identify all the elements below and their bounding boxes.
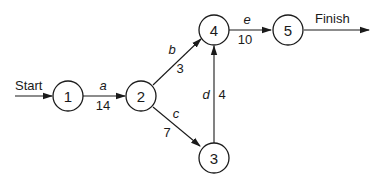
edge-b-name: b: [168, 42, 175, 57]
edge-e: e 10: [229, 12, 271, 47]
edge-c-name: c: [173, 106, 180, 121]
node-5: 5: [273, 15, 303, 45]
node-3-label: 3: [210, 150, 218, 167]
edge-d-weight: 4: [218, 87, 225, 102]
edge-c-weight: 7: [163, 125, 170, 140]
node-2-label: 2: [137, 88, 145, 105]
edge-a-name: a: [99, 78, 106, 93]
edge-c: c 7: [153, 106, 200, 146]
node-2: 2: [126, 81, 156, 111]
node-5-label: 5: [284, 22, 292, 39]
edge-b: b 3: [153, 39, 201, 85]
node-4-label: 4: [210, 22, 218, 39]
edge-d: d 4: [202, 46, 225, 143]
edge-b-weight: 3: [176, 61, 183, 76]
edge-a-weight: 14: [96, 98, 110, 113]
start-arrow: Start: [15, 78, 52, 96]
finish-label: Finish: [315, 11, 350, 26]
edge-d-name: d: [202, 87, 210, 102]
node-1: 1: [53, 81, 83, 111]
edge-a: a 14: [83, 78, 125, 113]
node-3: 3: [199, 143, 229, 173]
finish-arrow: Finish: [304, 11, 369, 30]
node-4: 4: [199, 15, 229, 45]
edge-e-weight: 10: [238, 32, 252, 47]
node-1-label: 1: [64, 88, 72, 105]
network-diagram: Start a 14 b 3 c 7 d 4 e 10 Finish 1: [0, 0, 384, 185]
edge-e-name: e: [243, 12, 250, 27]
start-label: Start: [15, 78, 43, 93]
